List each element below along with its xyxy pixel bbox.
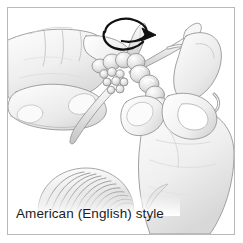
figure-panel: American (English) style (0, 0, 243, 243)
figure-caption: American (English) style (16, 206, 216, 222)
